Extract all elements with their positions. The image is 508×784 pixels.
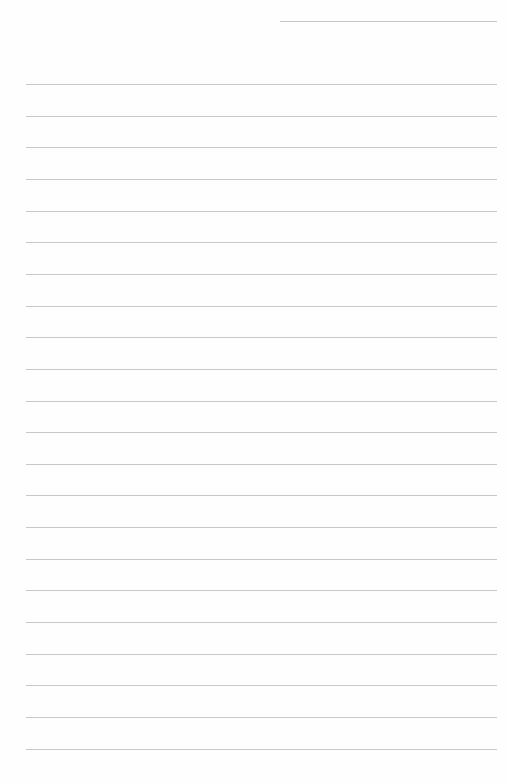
- ruled-line: [26, 337, 497, 338]
- ruled-line: [26, 401, 497, 402]
- ruled-line: [26, 559, 497, 560]
- ruled-line: [26, 464, 497, 465]
- ruled-line: [26, 527, 497, 528]
- ruled-line: [26, 116, 497, 117]
- ruled-line: [26, 717, 497, 718]
- header-date-line: [280, 21, 497, 22]
- ruled-line: [26, 622, 497, 623]
- lined-paper-page: [0, 0, 508, 784]
- ruled-line: [26, 306, 497, 307]
- ruled-line: [26, 369, 497, 370]
- ruled-line: [26, 749, 497, 750]
- ruled-line: [26, 590, 497, 591]
- ruled-line: [26, 495, 497, 496]
- ruled-line: [26, 242, 497, 243]
- ruled-line: [26, 432, 497, 433]
- ruled-line: [26, 685, 497, 686]
- ruled-line: [26, 147, 497, 148]
- ruled-line: [26, 274, 497, 275]
- ruled-line: [26, 84, 497, 85]
- ruled-line: [26, 211, 497, 212]
- ruled-line: [26, 654, 497, 655]
- ruled-line: [26, 179, 497, 180]
